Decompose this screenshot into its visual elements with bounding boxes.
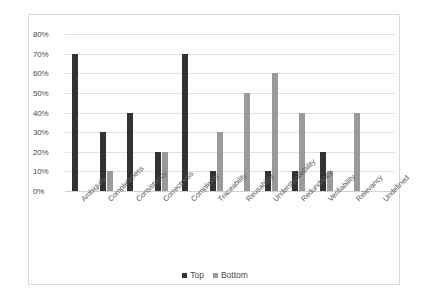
x-axis-label-slot: Relevancy <box>340 193 368 271</box>
y-axis-tick-label: 20% <box>33 147 63 156</box>
x-axis-label-slot: Reusability <box>230 193 258 271</box>
bar-group <box>258 34 286 191</box>
y-axis-tick-label: 70% <box>33 49 63 58</box>
plot-area <box>65 34 395 191</box>
bar-group <box>230 34 258 191</box>
bar-group <box>203 34 231 191</box>
y-axis-tick-label: 80% <box>33 30 63 39</box>
y-axis-tick-label: 30% <box>33 128 63 137</box>
x-axis-label-slot: Verifiability <box>313 193 341 271</box>
legend-swatch-icon <box>182 273 187 278</box>
plot-wrapper: 0%10%20%30%40%50%60%70%80% AmbiguityComp… <box>29 15 401 286</box>
x-axis-label-slot: Traceability <box>203 193 231 271</box>
legend-label: Top <box>190 270 204 280</box>
x-axis-label-slot: Correctness <box>148 193 176 271</box>
x-axis-labels: AmbiguityCompletenessConsistencyCorrectn… <box>65 193 395 271</box>
x-axis-label-slot: Completeness <box>93 193 121 271</box>
legend-item-bottom[interactable]: Bottom <box>213 270 248 280</box>
y-axis-tick-label: 50% <box>33 88 63 97</box>
bar-group <box>175 34 203 191</box>
x-axis-label-slot: Ambiguity <box>65 193 93 271</box>
bar-bottom <box>107 171 113 191</box>
legend-item-top[interactable]: Top <box>182 270 204 280</box>
x-axis-label-slot: Consistency <box>120 193 148 271</box>
bar-group <box>148 34 176 191</box>
chart-container: 0%10%20%30%40%50%60%70%80% AmbiguityComp… <box>28 14 400 285</box>
legend-swatch-icon <box>213 273 218 278</box>
x-axis-label-slot: Complexity <box>175 193 203 271</box>
bar-group <box>93 34 121 191</box>
y-axis-tick-label: 40% <box>33 108 63 117</box>
bar-group <box>65 34 93 191</box>
bar-group <box>340 34 368 191</box>
chart-legend: TopBottom <box>29 268 401 282</box>
bar-groups <box>65 34 395 191</box>
legend-label: Bottom <box>221 270 248 280</box>
bar-top <box>72 54 78 191</box>
bar-group <box>313 34 341 191</box>
bar-group <box>368 34 396 191</box>
y-axis-tick-label: 60% <box>33 69 63 78</box>
y-axis-tick-label: 0% <box>33 187 63 196</box>
bar-bottom <box>272 73 278 191</box>
x-axis-label-slot: Undefined <box>368 193 396 271</box>
x-axis-label-slot: Redundancy <box>285 193 313 271</box>
x-axis-label-slot: Understandability <box>258 193 286 271</box>
y-axis-tick-label: 10% <box>33 167 63 176</box>
bar-bottom <box>217 132 223 191</box>
